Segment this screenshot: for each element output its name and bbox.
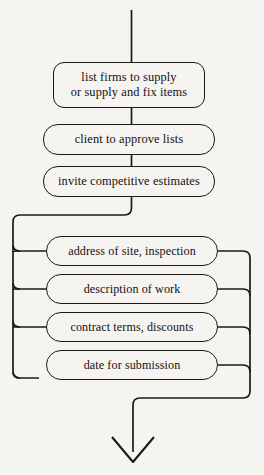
connector-right-branch-4 (218, 365, 250, 372)
node-client-approve[interactable]: client to approve lists (43, 124, 215, 155)
connector-right-branch-3 (218, 327, 250, 334)
connector-right-branch-2 (218, 289, 250, 296)
connector-left-elbow-2 (13, 283, 20, 289)
node-date-submission[interactable]: date for submission (46, 350, 218, 380)
node-description-work-label: description of work (80, 282, 185, 296)
node-list-firms[interactable]: list firms to supply or supply and fix i… (53, 62, 205, 108)
node-client-approve-label: client to approve lists (71, 132, 188, 147)
connector-left-elbow-1 (13, 245, 20, 251)
node-address-site-label: address of site, inspection (64, 244, 200, 258)
node-contract-terms-label: contract terms, discounts (66, 320, 197, 334)
node-description-work[interactable]: description of work (46, 274, 218, 304)
node-invite-estimates[interactable]: invite competitive estimates (43, 166, 215, 197)
node-invite-estimates-label: invite competitive estimates (54, 174, 204, 189)
node-list-firms-label: list firms to supply or supply and fix i… (67, 70, 192, 99)
node-date-submission-label: date for submission (80, 358, 185, 372)
connector-left-elbow-4 (13, 372, 20, 378)
flowchart-canvas: list firms to supply or supply and fix i… (0, 0, 264, 475)
node-address-site[interactable]: address of site, inspection (46, 236, 218, 266)
node-contract-terms[interactable]: contract terms, discounts (46, 312, 218, 342)
connector-left-elbow-3 (13, 321, 20, 327)
